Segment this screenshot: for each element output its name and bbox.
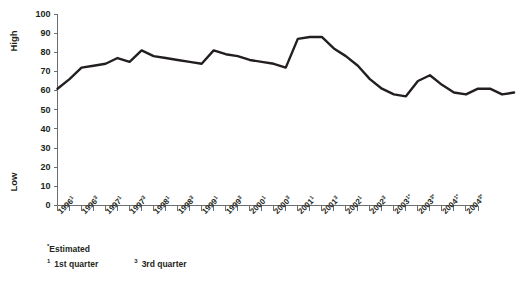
x-tick-label: 20031* bbox=[392, 192, 416, 216]
y-tick-label: 100 bbox=[35, 9, 50, 19]
y-tick-label: 90 bbox=[40, 28, 50, 38]
data-series-line bbox=[58, 37, 515, 96]
svg-text:20041*: 20041* bbox=[440, 192, 464, 216]
svg-text:20031*: 20031* bbox=[392, 192, 416, 216]
y-tick-label: 0 bbox=[45, 200, 50, 210]
x-tick-label: 20043* bbox=[464, 192, 488, 216]
y-tick-label: 70 bbox=[40, 66, 50, 76]
footnote-q1-mark: 1 bbox=[47, 258, 50, 264]
footnote-q3-text: 3rd quarter bbox=[142, 258, 187, 270]
footnote-quarters: 11st quarter33rd quarter bbox=[47, 255, 187, 270]
x-tick-label: 20033* bbox=[416, 192, 440, 216]
x-tick-label: 20041* bbox=[440, 192, 464, 216]
y-tick-label: 80 bbox=[40, 47, 50, 57]
footnote-q3-mark: 3 bbox=[134, 258, 137, 264]
chart-canvas: 0102030405060708090100HighLow19961199631… bbox=[0, 0, 522, 240]
y-tick-label: 50 bbox=[40, 105, 50, 115]
axis-title-low: Low bbox=[8, 172, 19, 192]
footnote-estimated: *Estimated bbox=[47, 240, 187, 255]
y-tick-label: 60 bbox=[40, 85, 50, 95]
svg-text:20043*: 20043* bbox=[464, 192, 488, 216]
axis-title-high: High bbox=[8, 30, 19, 51]
footnote-estimated-text: Estimated bbox=[49, 244, 90, 254]
footnote-q1-text: 1st quarter bbox=[54, 258, 98, 270]
y-tick-label: 20 bbox=[40, 162, 50, 172]
svg-text:20033*: 20033* bbox=[416, 192, 440, 216]
chart-footnotes: *Estimated 11st quarter33rd quarter bbox=[47, 240, 187, 270]
y-tick-label: 40 bbox=[40, 124, 50, 134]
y-tick-label: 10 bbox=[40, 181, 50, 191]
y-tick-label: 30 bbox=[40, 143, 50, 153]
